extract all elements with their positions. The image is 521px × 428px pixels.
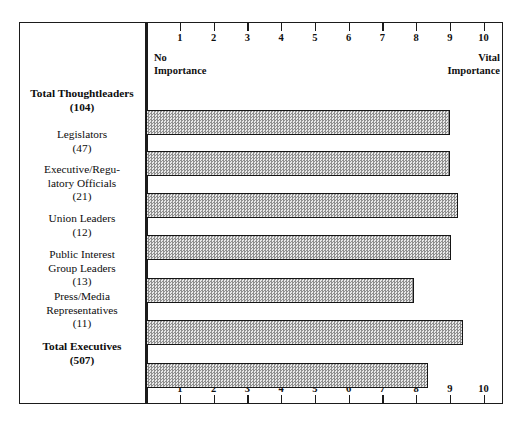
category-label-line: Public Interest	[19, 248, 145, 261]
anchor-label-high: Vital Importance	[448, 52, 501, 77]
category-label-line: Representatives	[19, 304, 145, 317]
anchor-low-line2: Importance	[154, 65, 207, 76]
category-base-count: (21)	[19, 190, 145, 203]
axis-tick-label-top-9: 9	[437, 32, 463, 43]
axis-tick-label-top-4: 4	[268, 32, 294, 43]
axis-tick-top-1	[180, 22, 181, 31]
category-label: Legislators(47)	[19, 128, 145, 155]
anchor-label-low: No Importance	[154, 52, 207, 77]
category-base-count: (12)	[19, 226, 145, 239]
bar	[146, 151, 450, 176]
axis-tick-bottom-4	[281, 395, 282, 404]
category-base-count: (47)	[19, 142, 145, 155]
category-label: Executive/Regu-latory Officials(21)	[19, 163, 145, 203]
axis-tick-bottom-7	[382, 395, 383, 404]
axis-tick-bottom-5	[315, 395, 316, 404]
plot-area: No Importance Vital Importance 112233445…	[146, 22, 503, 404]
category-label-line: Executive/Regu-	[19, 163, 145, 176]
category-label-line: latory Officials	[19, 177, 145, 190]
category-label-line: Union Leaders	[19, 212, 145, 225]
axis-tick-bottom-9	[450, 395, 451, 404]
axis-tick-top-3	[247, 22, 248, 31]
axis-tick-label-top-6: 6	[336, 32, 362, 43]
category-base-count: (11)	[19, 317, 145, 330]
bar	[146, 235, 451, 260]
category-base-count: (507)	[19, 354, 145, 367]
axis-tick-top-4	[281, 22, 282, 31]
axis-tick-label-top-1: 1	[167, 32, 193, 43]
category-label: Total Thoughtleaders(104)	[19, 87, 145, 114]
axis-tick-label-top-10: 10	[471, 32, 497, 43]
axis-tick-label-top-2: 2	[201, 32, 227, 43]
category-label-line: Press/Media	[19, 290, 145, 303]
axis-tick-label-top-8: 8	[403, 32, 429, 43]
axis-tick-label-top-5: 5	[302, 32, 328, 43]
bar	[146, 193, 458, 218]
category-base-count: (104)	[19, 101, 145, 114]
category-label-line: Total Executives	[19, 340, 145, 353]
bar-chart: No Importance Vital Importance 112233445…	[0, 0, 521, 428]
axis-tick-top-5	[315, 22, 316, 31]
axis-tick-bottom-2	[214, 395, 215, 404]
axis-tick-bottom-8	[416, 395, 417, 404]
bar	[146, 363, 428, 388]
category-label: Total Executives(507)	[19, 340, 145, 367]
category-label-line: Group Leaders	[19, 262, 145, 275]
category-label: Press/MediaRepresentatives(11)	[19, 290, 145, 330]
axis-tick-top-2	[214, 22, 215, 31]
category-label: Public InterestGroup Leaders(13)	[19, 248, 145, 288]
axis-tick-top-6	[349, 22, 350, 31]
bar	[146, 278, 414, 303]
axis-tick-bottom-1	[180, 395, 181, 404]
anchor-low-line1: No	[154, 52, 167, 63]
anchor-high-line2: Importance	[448, 65, 501, 76]
bar	[146, 110, 450, 135]
axis-tick-top-7	[382, 22, 383, 31]
axis-tick-top-8	[416, 22, 417, 31]
category-label-line: Total Thoughtleaders	[19, 87, 145, 100]
axis-tick-top-10	[484, 22, 485, 31]
axis-tick-label-bottom-10: 10	[471, 383, 497, 394]
category-label: Union Leaders(12)	[19, 212, 145, 239]
bar	[146, 320, 463, 345]
axis-tick-bottom-3	[247, 395, 248, 404]
axis-tick-top-9	[450, 22, 451, 31]
category-base-count: (13)	[19, 275, 145, 288]
category-label-line: Legislators	[19, 128, 145, 141]
axis-tick-label-top-7: 7	[369, 32, 395, 43]
anchor-high-line1: Vital	[478, 52, 500, 63]
axis-tick-label-top-3: 3	[234, 32, 260, 43]
axis-tick-label-bottom-9: 9	[437, 383, 463, 394]
axis-tick-bottom-6	[349, 395, 350, 404]
axis-tick-bottom-10	[484, 395, 485, 404]
